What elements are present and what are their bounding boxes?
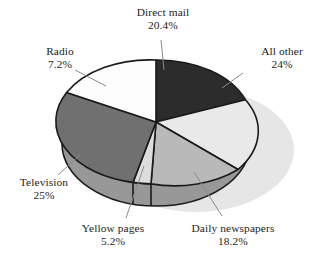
label-radio-pct: 7.2% — [20, 58, 100, 71]
label-yellow-pages-pct: 5.2% — [58, 235, 168, 248]
pie-top-face — [56, 60, 258, 186]
label-television-name: Television — [20, 176, 68, 188]
pie-chart: Direct mail 20.4% All other 24% Radio 7.… — [0, 0, 326, 265]
label-yellow-pages-name: Yellow pages — [82, 222, 144, 234]
label-direct-mail: Direct mail 20.4% — [103, 6, 223, 32]
label-radio: Radio 7.2% — [20, 45, 100, 71]
label-daily-newspapers: Daily newspapers 18.2% — [168, 222, 298, 248]
label-all-other-name: All other — [261, 45, 303, 57]
label-direct-mail-pct: 20.4% — [103, 19, 223, 32]
label-direct-mail-name: Direct mail — [137, 6, 190, 18]
label-television-pct: 25% — [1, 189, 87, 202]
label-daily-newspapers-pct: 18.2% — [168, 235, 298, 248]
label-all-other-pct: 24% — [240, 58, 324, 71]
label-all-other: All other 24% — [240, 45, 324, 71]
label-television: Television 25% — [1, 176, 87, 202]
label-daily-newspapers-name: Daily newspapers — [192, 222, 275, 234]
label-radio-name: Radio — [46, 45, 74, 57]
label-yellow-pages: Yellow pages 5.2% — [58, 222, 168, 248]
